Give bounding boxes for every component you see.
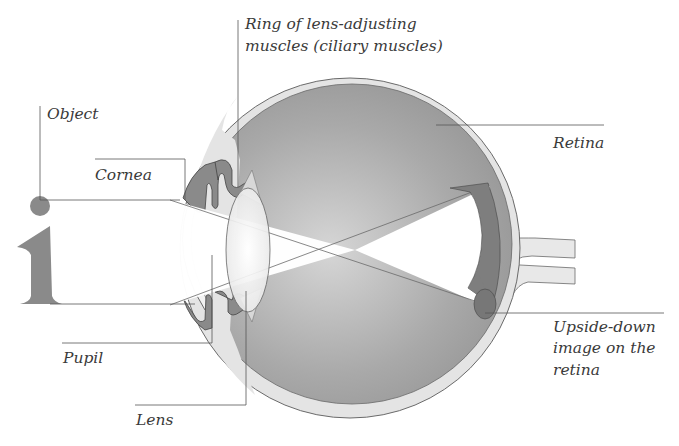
retina-image-dot xyxy=(474,289,496,319)
label-retina: Retina xyxy=(553,133,604,154)
label-cornea: Cornea xyxy=(95,165,152,186)
label-lens: Lens xyxy=(136,410,173,431)
label-image-line2: image on the xyxy=(553,338,656,359)
eye-diagram: Ring of lens-adjusting muscles (ciliary … xyxy=(0,0,679,446)
label-image-line1: Upside-down xyxy=(553,317,656,338)
lens xyxy=(226,188,270,312)
label-ciliary-muscles-line1: Ring of lens-adjusting xyxy=(245,14,417,35)
object-letter-i xyxy=(17,196,62,304)
label-pupil: Pupil xyxy=(63,348,103,369)
label-ciliary-muscles-line2: muscles (ciliary muscles) xyxy=(245,36,443,57)
label-image-line3: retina xyxy=(553,360,600,381)
label-object: Object xyxy=(47,104,99,125)
